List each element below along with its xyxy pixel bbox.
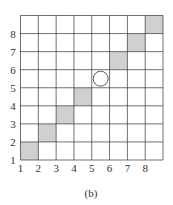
shaded-cell bbox=[21, 142, 39, 160]
diagonal-grid-diagram: 12345678 12345678 (b) bbox=[0, 0, 173, 205]
shaded-cell bbox=[74, 88, 92, 106]
y-tick-label: 6 bbox=[10, 64, 16, 76]
y-tick-label: 1 bbox=[10, 154, 16, 166]
x-tick-label: 6 bbox=[107, 162, 113, 174]
y-tick-label: 2 bbox=[10, 136, 16, 148]
x-tick-label: 5 bbox=[89, 162, 95, 174]
figure-caption: (b) bbox=[85, 187, 98, 200]
shaded-cell bbox=[110, 52, 128, 70]
y-tick-label: 5 bbox=[10, 82, 16, 94]
x-tick-label: 1 bbox=[18, 162, 24, 174]
x-tick-label: 2 bbox=[36, 162, 42, 174]
x-tick-label: 3 bbox=[53, 162, 59, 174]
y-tick-label: 7 bbox=[10, 46, 16, 58]
x-tick-label: 8 bbox=[142, 162, 148, 174]
y-tick-label: 4 bbox=[10, 100, 16, 112]
shaded-cell bbox=[127, 34, 145, 52]
y-tick-label: 3 bbox=[10, 118, 16, 130]
x-tick-label: 4 bbox=[71, 162, 77, 174]
y-axis-labels: 12345678 bbox=[10, 28, 16, 166]
shaded-cell bbox=[145, 16, 163, 34]
shaded-cell bbox=[56, 106, 74, 124]
shaded-cell bbox=[38, 124, 56, 142]
x-tick-label: 7 bbox=[125, 162, 131, 174]
y-tick-label: 8 bbox=[10, 28, 16, 40]
x-axis-labels: 12345678 bbox=[18, 162, 149, 174]
circle-marker bbox=[93, 71, 108, 86]
